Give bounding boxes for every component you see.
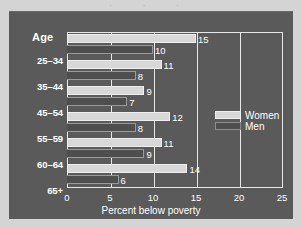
category-label: 45–54 (37, 107, 63, 118)
bar-men (67, 123, 136, 132)
gridline-20 (240, 33, 241, 187)
bar-men (67, 97, 127, 106)
category-label-column: 25–3435–4445–5455–5960–6465+ (9, 32, 63, 188)
x-tick-label: 15 (191, 192, 202, 203)
bar-women (67, 112, 170, 121)
bar-value-label: 9 (146, 150, 151, 160)
bar-value-label: 11 (164, 61, 174, 71)
bar-value-label: 8 (138, 72, 143, 82)
category-label: 55–59 (37, 133, 63, 144)
bar-women (67, 60, 162, 69)
women-swatch (215, 111, 241, 119)
cropped-title-artifact: · · · (0, 0, 302, 9)
category-label: 60–64 (37, 159, 63, 170)
bar-value-label: 7 (129, 98, 134, 108)
bar-women (67, 86, 144, 95)
x-tick-label: 10 (148, 192, 159, 203)
x-tick-label: 20 (234, 192, 245, 203)
bar-value-label: 8 (138, 124, 143, 134)
bar-value-label: 10 (155, 46, 166, 56)
chart-figure: · · · Age 25–3435–4445–5455–5960–6465+ 1… (0, 0, 302, 228)
legend-label: Men (245, 121, 264, 132)
bar-value-label: 12 (172, 113, 183, 123)
bar-value-label: 11 (164, 139, 174, 149)
bar-women (67, 138, 162, 147)
x-axis-title: Percent below poverty (9, 205, 293, 216)
bar-value-label: 14 (189, 165, 200, 175)
men-swatch (215, 122, 241, 130)
bar-men (67, 175, 119, 184)
x-tick-label: 0 (64, 192, 69, 203)
chart-panel: Age 25–3435–4445–5455–5960–6465+ 1510118… (9, 11, 293, 219)
bar-value-label: 6 (121, 176, 126, 186)
bar-value-label: 15 (198, 35, 209, 45)
category-label: 35–44 (37, 81, 63, 92)
category-label: 25–34 (37, 55, 63, 66)
x-tick-label: 5 (107, 192, 112, 203)
bar-men (67, 45, 153, 54)
x-tick-label: 25 (277, 192, 288, 203)
bar-value-label: 9 (146, 87, 151, 97)
category-label: 65+ (47, 185, 63, 196)
bar-women (67, 34, 196, 43)
bar-women (67, 164, 187, 173)
bar-men (67, 149, 144, 158)
legend-label: Women (245, 110, 279, 121)
bar-men (67, 71, 136, 80)
